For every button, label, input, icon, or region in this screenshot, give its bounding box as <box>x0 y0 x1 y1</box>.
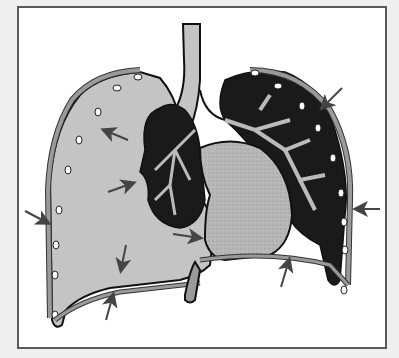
arrow-icon <box>322 88 342 108</box>
arrow-icon <box>281 260 289 287</box>
lung-diagram <box>0 0 399 358</box>
arrow-icon <box>106 295 113 320</box>
arrow-icon <box>25 211 48 223</box>
